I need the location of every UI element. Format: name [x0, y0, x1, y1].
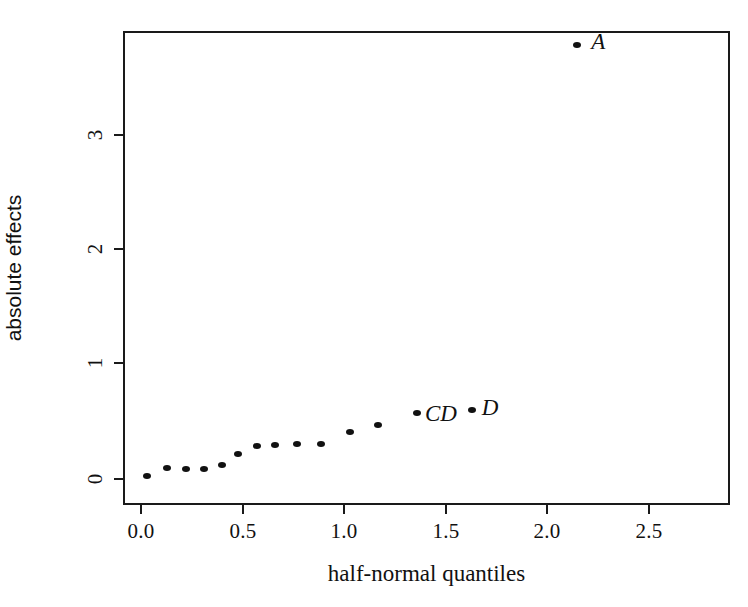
x-tick-mark	[648, 505, 650, 514]
x-tick-mark	[343, 505, 345, 514]
y-tick-mark	[114, 362, 123, 364]
data-point	[163, 465, 171, 471]
data-point	[200, 466, 208, 472]
x-tick-label: 2.0	[507, 519, 587, 544]
y-tick-label: 1	[82, 350, 108, 376]
data-point	[317, 441, 325, 447]
point-label-d: D	[482, 395, 499, 421]
y-tick-label: 2	[82, 236, 108, 262]
y-tick-mark	[114, 478, 123, 480]
y-tick-label: 0	[82, 466, 108, 492]
data-point	[346, 429, 354, 435]
y-tick-mark	[114, 248, 123, 250]
x-tick-label: 1.5	[406, 519, 486, 544]
data-point	[253, 443, 261, 449]
point-label-a: A	[591, 29, 605, 55]
y-tick-label: 3	[82, 122, 108, 148]
data-point	[293, 441, 301, 447]
x-tick-mark	[546, 505, 548, 514]
x-tick-label: 2.5	[609, 519, 689, 544]
data-point	[271, 442, 279, 448]
x-tick-mark	[242, 505, 244, 514]
x-tick-mark	[140, 505, 142, 514]
x-tick-label: 0.5	[203, 519, 283, 544]
x-tick-mark	[445, 505, 447, 514]
x-tick-label: 0.0	[101, 519, 181, 544]
y-tick-mark	[114, 134, 123, 136]
x-axis-title: half-normal quantiles	[123, 561, 730, 587]
half-normal-plot-figure: 0.0 0.5 1.0 1.5 2.0 2.5 0 1 2 3 half-nor…	[0, 0, 748, 607]
data-point	[413, 410, 421, 416]
data-point	[182, 466, 190, 472]
y-axis-title: absolute effects	[0, 118, 28, 418]
data-point	[143, 473, 151, 479]
plot-area-frame	[123, 31, 730, 505]
point-label-cd: CD	[425, 401, 457, 427]
x-tick-label: 1.0	[304, 519, 384, 544]
data-point	[573, 42, 581, 48]
